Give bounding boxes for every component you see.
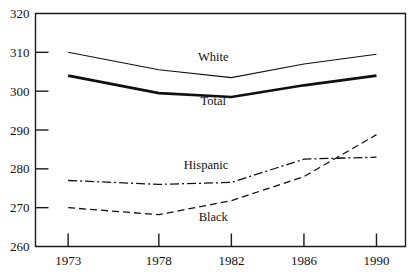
y-axis-tick-labels: 260270280290300310320 bbox=[10, 6, 30, 254]
y-tick-label-270: 270 bbox=[10, 200, 30, 215]
series-inline-labels: WhiteTotalHispanicBlack bbox=[184, 50, 229, 224]
data-series-lines bbox=[68, 52, 376, 214]
series-label-hispanic: Hispanic bbox=[184, 158, 229, 172]
series-label-total: Total bbox=[200, 94, 226, 108]
x-axis-tick-labels: 19731978198219861990 bbox=[55, 253, 389, 268]
line-chart: 260270280290300310320 197319781982198619… bbox=[0, 0, 413, 277]
x-tick-label-1978: 1978 bbox=[146, 253, 172, 268]
x-tick-label-1986: 1986 bbox=[291, 253, 318, 268]
series-line-black bbox=[68, 135, 376, 215]
series-label-black: Black bbox=[199, 210, 229, 224]
chart-canvas: 260270280290300310320 197319781982198619… bbox=[0, 0, 413, 277]
y-tick-label-260: 260 bbox=[10, 239, 30, 254]
y-tick-label-300: 300 bbox=[10, 84, 30, 99]
x-tick-label-1982: 1982 bbox=[218, 253, 244, 268]
y-tick-label-320: 320 bbox=[10, 6, 30, 21]
series-label-white: White bbox=[198, 50, 229, 64]
x-tick-label-1990: 1990 bbox=[363, 253, 389, 268]
y-tick-label-310: 310 bbox=[10, 45, 30, 60]
y-tick-label-280: 280 bbox=[10, 161, 30, 176]
x-tick-label-1973: 1973 bbox=[55, 253, 81, 268]
y-tick-label-290: 290 bbox=[10, 123, 30, 138]
